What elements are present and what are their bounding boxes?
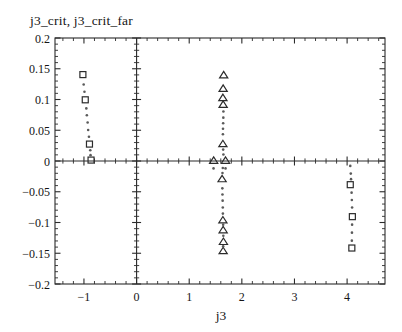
zero-axis-lines [55,38,385,284]
data-point [220,71,228,77]
data-point [222,122,225,125]
figure-canvas: j3_crit, j3_crit_far −1012340.20.150.10.… [0,0,402,332]
y-tick-label: −0.2 [28,278,50,292]
data-point [82,97,88,103]
data-point [349,214,355,220]
x-tick-label: 2 [239,290,245,304]
x-tick-label: 4 [344,290,350,304]
data-point [222,212,225,215]
series-j3_crit_far [210,71,230,253]
data-point [349,165,352,168]
series-trail-dots [82,83,353,247]
y-tick-label: 0 [44,155,50,169]
data-point [83,91,86,94]
data-point [221,167,224,170]
data-point [219,101,227,107]
data-point [349,172,352,175]
data-point [221,172,224,175]
data-point [219,226,227,232]
y-tick-label: −0.15 [22,247,50,261]
data-point [349,245,355,251]
x-tick-label: −1 [78,290,91,304]
data-point [222,127,225,130]
data-point [218,175,226,181]
data-point [219,247,227,253]
data-point [219,94,227,100]
data-point [82,83,85,86]
y-tick-label: 0.15 [29,62,50,76]
data-point [80,72,86,78]
data-point [221,206,224,209]
data-point [219,217,227,223]
data-point [350,178,353,181]
data-point [350,191,353,194]
data-point [219,85,227,91]
data-point [351,239,354,242]
data-point [224,167,227,170]
data-point [86,141,92,147]
data-point [88,135,91,138]
data-point [86,121,89,124]
data-point [222,245,225,248]
data-point [221,193,224,196]
data-point [87,129,90,132]
data-point [86,114,89,117]
data-point [351,199,354,202]
data-points [80,71,355,253]
data-point [88,157,94,163]
data-point [89,149,92,152]
data-point [89,154,92,157]
data-point [221,199,224,202]
data-point [351,206,354,209]
data-point [221,157,229,163]
data-point [219,238,227,244]
x-tick-label: 0 [134,290,140,304]
data-point [351,231,354,234]
data-point [212,167,215,170]
y-tick-label: 0.1 [35,93,50,107]
data-point [347,182,353,188]
data-point [222,110,225,113]
data-point [222,153,225,156]
x-tick-label: 1 [186,290,192,304]
data-point [222,234,225,237]
y-tick-label: −0.1 [28,216,50,230]
data-point [221,187,224,190]
y-tick-label: 0.05 [29,124,50,138]
data-point [222,148,225,151]
data-point [222,223,225,226]
data-point [210,157,218,163]
data-point [222,133,225,136]
tick-labels: −1012340.20.150.10.050−0.05−0.1−0.15−0.2 [22,32,350,305]
data-point [219,140,227,146]
data-point [351,223,354,226]
x-tick-label: 3 [291,290,297,304]
y-tick-label: −0.05 [22,185,50,199]
data-point [85,107,88,110]
data-point [222,116,225,119]
x-axis-label: j3 [215,308,227,323]
scatter-plot: −1012340.20.150.10.050−0.05−0.1−0.15−0.2… [0,0,402,332]
y-tick-label: 0.2 [35,32,50,46]
